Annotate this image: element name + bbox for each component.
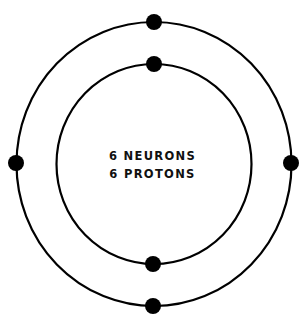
- electron-outer-top: [146, 14, 162, 30]
- nucleus-label-neurons: 6 NEURONS: [0, 149, 305, 163]
- electron-outer-bottom: [145, 298, 161, 314]
- nucleus-label-protons: 6 PROTONS: [0, 167, 305, 181]
- electron-inner-top: [146, 56, 162, 72]
- electron-inner-bottom: [145, 256, 161, 272]
- inner-orbit: [57, 64, 252, 264]
